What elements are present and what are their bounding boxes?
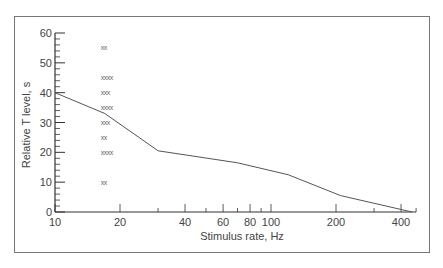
x-tick-label: 200 [327, 216, 345, 228]
plot-area: xxxxxxxxxxxxxxxxxxxxxxxx [55, 44, 412, 212]
x-tick-label: 10 [49, 216, 61, 228]
data-marker: xxx [101, 119, 111, 126]
data-marker: xx [101, 134, 108, 141]
chart: 01020304050601020406080100200400 xxxxxxx… [0, 0, 443, 268]
x-tick-label: 80 [244, 216, 256, 228]
x-tick-label: 60 [217, 216, 229, 228]
y-tick-label: 20 [40, 146, 52, 158]
axes: 01020304050601020406080100200400 [40, 27, 416, 228]
y-tick-label: 10 [40, 176, 52, 188]
y-tick-label: 50 [40, 57, 52, 69]
x-tick-label: 400 [392, 216, 410, 228]
x-tick-label: 100 [262, 216, 280, 228]
y-axis-title: Relative T level, s [20, 81, 32, 168]
x-tick-label: 20 [114, 216, 126, 228]
data-marker: xx [101, 44, 108, 51]
data-marker: xxxx [101, 149, 114, 156]
data-marker: xxx [101, 89, 111, 96]
y-tick-label: 40 [40, 87, 52, 99]
data-marker: xx [101, 179, 108, 186]
x-tick-label: 40 [179, 216, 191, 228]
y-tick-label: 30 [40, 117, 52, 129]
data-marker: xxxx [101, 74, 114, 81]
data-marker: xxxx [101, 104, 114, 111]
y-tick-label: 60 [40, 27, 52, 39]
x-axis-title: Stimulus rate, Hz [200, 230, 284, 242]
